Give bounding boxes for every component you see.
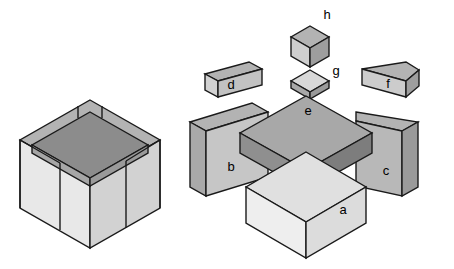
part-c-right-face [402,122,418,196]
assembled-cube [20,100,160,248]
part-h-small-cube [291,26,329,67]
part-g-label: g [332,63,339,78]
part-b-label: b [227,159,234,174]
part-b-left-face [190,122,206,196]
part-e-label: e [304,103,311,118]
exploded-cube-diagram: h g d f b c e [0,0,454,269]
part-d-label: d [227,77,234,92]
part-c-label: c [383,163,390,178]
part-a-label: a [339,202,347,217]
part-f-right-bar [362,62,419,97]
part-g-socket [291,70,329,99]
part-f-label: f [386,76,390,91]
part-h-label: h [323,7,330,22]
